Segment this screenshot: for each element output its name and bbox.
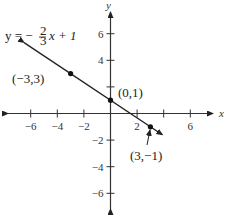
svg-text:−2: −2 — [78, 120, 90, 132]
svg-text:−4: −4 — [51, 120, 63, 132]
svg-text:x + 1: x + 1 — [48, 28, 77, 43]
y-axis-label: y — [105, 0, 111, 11]
x-axis-label: x — [218, 107, 224, 119]
svg-text:−6: −6 — [25, 120, 37, 132]
svg-text:6: 6 — [98, 28, 104, 40]
annotation-arrow — [147, 130, 150, 145]
point-label-0-1: (0,1) — [118, 85, 143, 100]
svg-text:y = −: y = − — [5, 28, 33, 43]
svg-text:−6: −6 — [92, 187, 104, 199]
equation-label: y = − 2 3 x + 1 — [5, 23, 77, 48]
point-label-neg3-3: (−3,3) — [12, 71, 44, 86]
coordinate-plane: x y −6−4−22664−2−4−6 y = − 2 3 x + 1 (−3… — [0, 0, 229, 219]
svg-text:−2: −2 — [92, 134, 104, 146]
svg-text:6: 6 — [188, 120, 194, 132]
svg-text:4: 4 — [98, 54, 104, 66]
svg-text:−4: −4 — [92, 161, 104, 173]
svg-text:2: 2 — [134, 120, 140, 132]
point-label-3-neg1: (3,−1) — [130, 148, 162, 163]
svg-text:3: 3 — [40, 33, 47, 48]
